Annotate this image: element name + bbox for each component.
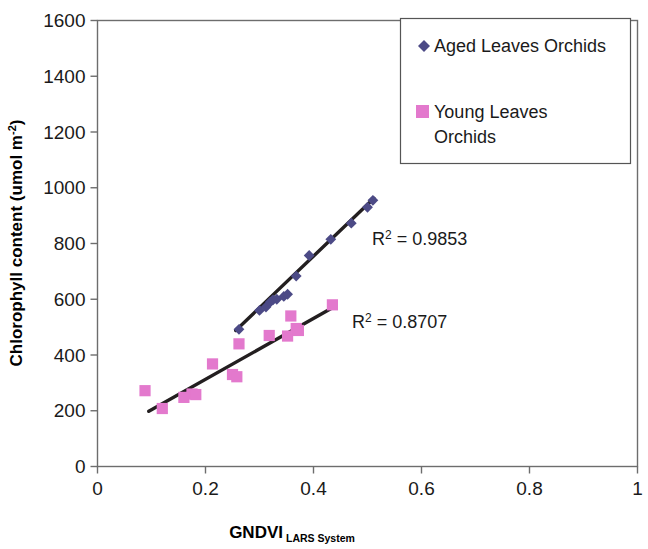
data-point-square xyxy=(190,389,201,400)
data-point-square xyxy=(207,358,218,369)
r-squared-young-value: = 0.8707 xyxy=(372,312,448,332)
y-tick-label: 1600 xyxy=(43,10,85,31)
y-tick-label: 800 xyxy=(54,233,86,254)
y-axis: 02004006008001000120014001600 xyxy=(43,10,97,477)
y-axis-title: Chlorophyll content (umol m-2) xyxy=(6,120,26,367)
y-tick-label: 400 xyxy=(54,345,86,366)
r-squared-aged: R2 = 0.9853 xyxy=(372,228,467,249)
svg-text:R2 = 0.9853: R2 = 0.9853 xyxy=(372,228,467,249)
x-axis: 00.20.40.60.81 xyxy=(92,467,643,499)
x-tick-label: 0.2 xyxy=(192,478,218,499)
data-point-square xyxy=(233,338,244,349)
y-axis-title-text: Chlorophyll content (umol m xyxy=(7,135,26,366)
y-axis-title-suffix: ) xyxy=(7,120,26,126)
svg-text:R2 = 0.8707: R2 = 0.8707 xyxy=(352,311,447,332)
data-point-diamond xyxy=(291,271,302,282)
data-point-square xyxy=(264,330,275,341)
x-axis-title-text: GNDVI xyxy=(229,523,283,542)
scatter-plot: 02004006008001000120014001600 00.20.40.6… xyxy=(0,0,648,549)
y-tick-label: 200 xyxy=(54,400,86,421)
svg-text:Chlorophyll content (umol m-2): Chlorophyll content (umol m-2) xyxy=(6,120,26,367)
data-point-square xyxy=(285,310,296,321)
x-tick-label: 1 xyxy=(632,478,643,499)
data-point-square xyxy=(157,403,168,414)
legend-marker-square-icon xyxy=(416,105,429,118)
trendline-square xyxy=(149,306,335,411)
chart-figure: 02004006008001000120014001600 00.20.40.6… xyxy=(0,0,648,549)
x-tick-label: 0 xyxy=(92,478,103,499)
x-tick-label: 0.8 xyxy=(516,478,542,499)
trendlines xyxy=(149,198,374,411)
data-point-square xyxy=(327,299,338,310)
y-axis-title-exponent: -2 xyxy=(6,125,18,135)
y-tick-label: 0 xyxy=(75,456,86,477)
y-tick-label: 1400 xyxy=(43,66,85,87)
r-squared-aged-value: = 0.9853 xyxy=(392,229,468,249)
series-points xyxy=(139,299,338,414)
data-point-square xyxy=(293,325,304,336)
legend: Aged Leaves Orchids Young Leaves Orchids xyxy=(401,19,631,164)
y-tick-label: 1000 xyxy=(43,177,85,198)
r-squared-young: R2 = 0.8707 xyxy=(352,311,447,332)
r-squared-aged-label: R xyxy=(372,229,385,249)
y-tick-label: 1200 xyxy=(43,122,85,143)
svg-text:GNDVILARS System: GNDVILARS System xyxy=(229,523,355,544)
x-axis-title-subscript: LARS System xyxy=(286,532,355,544)
x-tick-label: 0.6 xyxy=(408,478,434,499)
data-point-square xyxy=(231,371,242,382)
x-tick-label: 0.4 xyxy=(300,478,327,499)
r-squared-young-label: R xyxy=(352,312,365,332)
y-tick-label: 600 xyxy=(54,289,86,310)
x-axis-title: GNDVILARS System xyxy=(229,523,355,544)
legend-label-young-line2: Orchids xyxy=(434,127,496,147)
legend-entry-aged: Aged Leaves Orchids xyxy=(418,36,606,56)
legend-label-young: Young Leaves xyxy=(434,102,547,122)
data-point-square xyxy=(139,385,150,396)
legend-label-aged: Aged Leaves Orchids xyxy=(434,36,606,56)
data-point-diamond xyxy=(346,218,357,229)
data-point-diamond xyxy=(304,250,315,261)
